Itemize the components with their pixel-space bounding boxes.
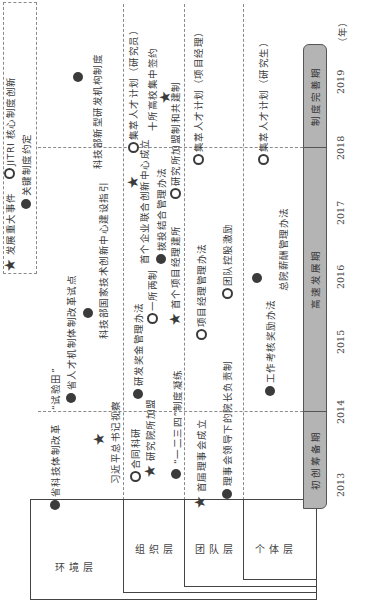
event-env-tech-center-guideline: 科技部国家技术创新中心建设指引 bbox=[98, 182, 109, 340]
event-team-holding-incentive: 团队控股激励 bbox=[222, 223, 233, 286]
event-team-pm-management: 项目经理管理办法 bbox=[196, 243, 207, 327]
year-2016: 2016 bbox=[335, 265, 346, 289]
dot-icon bbox=[66, 393, 76, 403]
event-ind-salary-management: 总院薪酬管理办法 bbox=[278, 207, 289, 291]
year-2018: 2018 bbox=[335, 136, 346, 160]
dot-icon bbox=[252, 273, 262, 283]
year-2017: 2017 bbox=[335, 201, 346, 225]
dot-icon bbox=[156, 254, 166, 264]
band-divider-org-team bbox=[184, 4, 185, 510]
dot-icon bbox=[21, 199, 31, 209]
event-team-president-responsibility: 理事会领导下的院长负责制 bbox=[222, 360, 233, 486]
ring-icon bbox=[193, 154, 204, 165]
year-2019: 2019 bbox=[335, 70, 346, 94]
event-org-contract-research: 合同科研 bbox=[130, 427, 141, 469]
dot-icon bbox=[222, 489, 232, 499]
layer-label-organization: 组织层 bbox=[135, 541, 177, 556]
event-org-ten-universities: 十所高校集中签约 bbox=[147, 47, 158, 131]
event-org-one-inst-two-sys: 一所两制 bbox=[147, 269, 158, 311]
event-org-institute-join: 研究院所加盟 bbox=[145, 398, 156, 461]
event-org-talent-researcher: 集萃人才计划（研究员） bbox=[128, 25, 139, 141]
event-env-xi-visit: 习近平总书记视察 bbox=[110, 400, 121, 484]
star-icon: ★ bbox=[193, 496, 208, 509]
dot-icon bbox=[50, 500, 60, 510]
dot-icon bbox=[265, 386, 275, 396]
legend-label-core-innovation: JITRI 核心制度创新 bbox=[5, 76, 16, 166]
event-ind-assessment-reward: 工作考核奖励办法 bbox=[265, 299, 276, 383]
legend-label-major-event: 发展重大事件 bbox=[5, 192, 16, 255]
ring-icon bbox=[222, 288, 233, 299]
phase-rapid-growth: 高速发展期 bbox=[303, 146, 327, 412]
layer-label-team: 团队层 bbox=[195, 541, 237, 556]
legend-label-key-agreement: 关键制度约定 bbox=[21, 133, 32, 196]
event-env-talent-reform-pilot: 省人才机制体制改革试点 bbox=[66, 275, 77, 391]
star-icon: ★ bbox=[158, 91, 173, 104]
layer-individual bbox=[243, 499, 317, 580]
ring-icon bbox=[128, 142, 139, 153]
star-icon: ★ bbox=[168, 313, 183, 326]
band-divider-env-org bbox=[123, 4, 124, 510]
ring-icon bbox=[196, 329, 207, 340]
year-2015: 2015 bbox=[335, 330, 346, 354]
event-env-provincial-reform: 省科技体制改革 bbox=[50, 424, 61, 498]
layer-label-individual: 个体层 bbox=[255, 541, 297, 556]
timeline-diagram: ★ 发展重大事件 JITRI 核心制度创新 关键制度约定 环境层 组织层 团队层… bbox=[0, 0, 367, 609]
phase-refinement: 制度完善期 bbox=[303, 44, 327, 148]
event-env-pilot-field: “试验田” bbox=[50, 368, 61, 410]
ring-icon bbox=[170, 188, 181, 199]
ring-icon bbox=[130, 471, 141, 482]
event-team-talent-pm: 集萃人才计划（项目经理） bbox=[193, 26, 204, 152]
star-icon: ★ bbox=[3, 259, 18, 272]
ring-icon bbox=[4, 168, 15, 179]
year-2013: 2013 bbox=[335, 473, 346, 497]
diagram-frame: ★ 发展重大事件 JITRI 核心制度创新 关键制度约定 环境层 组织层 团队层… bbox=[0, 0, 367, 609]
star-icon: ★ bbox=[143, 465, 158, 478]
event-ind-talent-graduate: 集萃人才计划（研究生） bbox=[258, 37, 269, 153]
dot-icon bbox=[83, 308, 93, 318]
year-2014: 2014 bbox=[335, 400, 346, 424]
star-icon: ★ bbox=[126, 176, 141, 189]
dot-icon bbox=[171, 469, 181, 479]
layer-label-environment: 环境层 bbox=[55, 559, 97, 574]
dot-icon bbox=[73, 72, 83, 82]
band-divider-team-individual bbox=[243, 4, 244, 510]
event-org-1234-system: “一二三四”制度凝练 bbox=[172, 369, 183, 464]
dot-icon bbox=[133, 389, 143, 399]
event-env-new-rd-institution: 科技部新型研发机构制度 bbox=[92, 54, 103, 170]
event-team-first-board: 首届理事会成立 bbox=[196, 419, 207, 493]
ring-icon bbox=[147, 313, 158, 324]
event-org-invest-loan: 拨投结合管理办法 bbox=[156, 167, 167, 251]
event-org-rd-bonus: 研发奖金管理办法 bbox=[133, 302, 144, 386]
event-org-first-enterprise-center: 首个企业联合创新中心成立 bbox=[139, 138, 150, 264]
year-divider-2014 bbox=[38, 411, 303, 412]
phase-initial: 初创筹备期 bbox=[303, 410, 327, 509]
ring-icon bbox=[258, 154, 269, 165]
year-unit: （年） bbox=[335, 17, 349, 47]
event-org-first-pm-institute: 首个项目经理建所 bbox=[170, 225, 181, 309]
star-icon: ★ bbox=[92, 433, 107, 446]
